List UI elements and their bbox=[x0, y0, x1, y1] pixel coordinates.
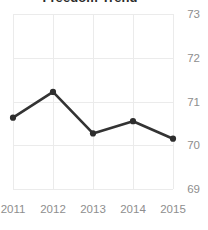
y-axis-tick-label: 73 bbox=[174, 8, 200, 20]
gridline-horizontal bbox=[13, 189, 173, 190]
y-axis-tick-label: 69 bbox=[174, 183, 200, 195]
data-point-marker bbox=[130, 118, 136, 124]
data-series-freedom-score bbox=[13, 14, 173, 189]
x-axis-tick-label: 2011 bbox=[0, 203, 35, 215]
series-markers bbox=[10, 89, 176, 142]
x-axis-tick-label: 2015 bbox=[151, 203, 195, 215]
chart-title: Freedom Trend bbox=[0, 0, 180, 5]
data-point-marker bbox=[10, 115, 16, 121]
y-axis-tick-label: 72 bbox=[174, 52, 200, 64]
line-chart: Freedom Trend 7372717069 201120122013201… bbox=[0, 0, 208, 230]
plot-area bbox=[13, 14, 173, 189]
y-axis-tick-label: 70 bbox=[174, 139, 200, 151]
x-axis-tick-label: 2014 bbox=[111, 203, 155, 215]
x-axis-tick-label: 2013 bbox=[71, 203, 115, 215]
data-point-marker bbox=[90, 130, 96, 136]
x-axis-tick-label: 2012 bbox=[31, 203, 75, 215]
y-axis-tick-label: 71 bbox=[174, 96, 200, 108]
data-point-marker bbox=[50, 89, 56, 95]
